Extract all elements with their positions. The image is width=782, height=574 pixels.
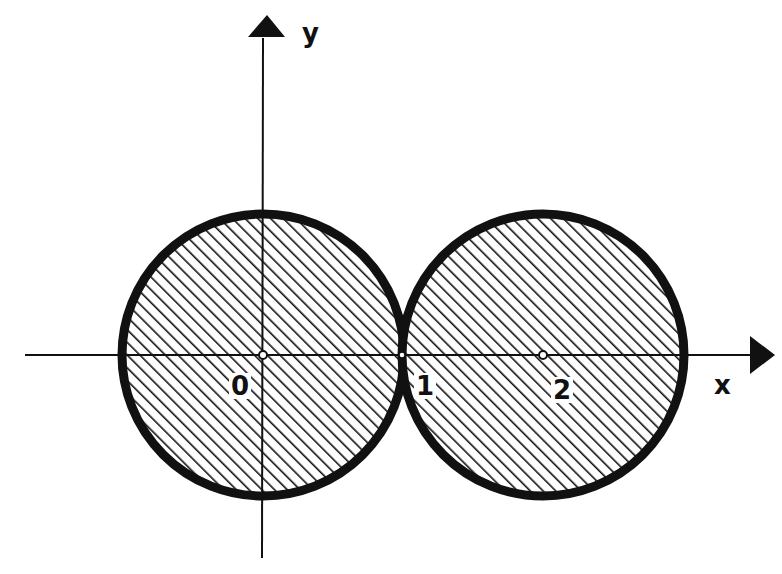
two-tangent-disks-diagram — [0, 0, 782, 574]
point-2-marker — [539, 351, 547, 359]
point-0-label: 0 — [229, 373, 251, 399]
point-1-label: 1 — [414, 373, 436, 399]
y-axis — [262, 38, 263, 558]
y-axis-arrow-icon — [248, 15, 285, 37]
y-axis-label: y — [302, 20, 319, 46]
point-1-marker — [399, 352, 405, 358]
point-0-marker — [259, 351, 267, 359]
x-axis-label: x — [714, 372, 731, 398]
point-2-label: 2 — [551, 377, 573, 403]
x-axis-arrow-icon — [750, 336, 775, 374]
